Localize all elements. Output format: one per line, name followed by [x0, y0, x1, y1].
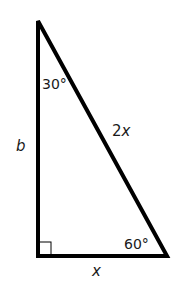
- vertical-side-label: b: [16, 137, 26, 155]
- horizontal-side-label: x: [91, 262, 101, 280]
- bottom-right-angle-label: 60°: [124, 236, 149, 252]
- top-angle-label: 30°: [42, 76, 67, 92]
- triangle-diagram: 30° 2x b 60° x: [0, 0, 177, 291]
- triangle-shape: [38, 21, 167, 256]
- hypotenuse-label: 2x: [112, 122, 131, 140]
